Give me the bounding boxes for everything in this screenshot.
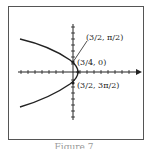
x-axis-arrow-icon (136, 69, 142, 75)
point-label-bottom: (3/2, 3π/2) (77, 81, 119, 90)
point-marker (71, 81, 74, 84)
point-label-top: (3/2, π/2) (86, 33, 123, 42)
figure-caption: Figure 7 (0, 142, 148, 149)
point-marker (71, 60, 74, 63)
point-marker (76, 70, 79, 73)
plot (0, 0, 148, 149)
point-label-vertex: (3/4, 0) (77, 58, 106, 67)
